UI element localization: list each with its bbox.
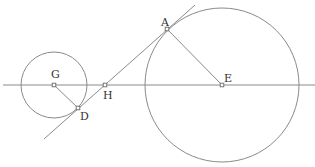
label-G: G bbox=[51, 68, 60, 81]
point-G bbox=[52, 83, 56, 87]
point-H bbox=[103, 83, 107, 87]
radius-GD bbox=[54, 85, 78, 108]
common-tangent-line bbox=[44, 5, 195, 139]
label-E: E bbox=[224, 72, 232, 85]
label-A: A bbox=[160, 16, 170, 29]
geometry-diagram: GDHAE bbox=[0, 0, 315, 167]
label-D: D bbox=[80, 110, 89, 123]
radius-EA bbox=[167, 29, 222, 85]
label-H: H bbox=[103, 89, 113, 102]
